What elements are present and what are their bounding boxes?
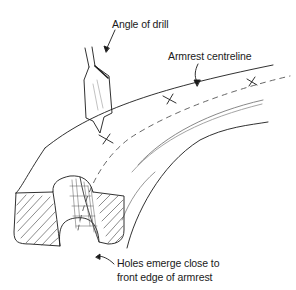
armrest-drawing [0, 0, 296, 290]
centreline-label: Armrest centreline [168, 50, 251, 63]
centreline-leader [195, 64, 198, 82]
armrest-lower-edge-2 [122, 172, 155, 220]
armrest-diagram: Angle of drill Armrest centreline Holes … [0, 0, 296, 290]
armrest-inner-edge-1 [138, 100, 263, 165]
holes-label-line1: Holes emerge close to [117, 257, 219, 270]
armrest-left-edge [16, 148, 45, 193]
centreline-dashed [78, 76, 290, 230]
armrest-cross-section [14, 176, 124, 246]
holes-arrowhead [96, 254, 100, 259]
holes-label-line2: front edge of armrest [117, 271, 212, 284]
drill-angle-arrowhead [104, 46, 109, 52]
armrest-inner-edge-2 [132, 104, 262, 172]
armrest-lower-edge [127, 122, 268, 248]
drill-angle-leader [107, 30, 115, 48]
drill-angle-label: Angle of drill [112, 18, 168, 31]
